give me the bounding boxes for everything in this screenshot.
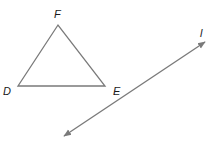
geometry-diagram: F D E l: [0, 0, 209, 144]
vertex-label-f: F: [54, 8, 62, 20]
line-l: [64, 42, 205, 136]
vertex-label-e: E: [113, 85, 121, 97]
vertex-label-d: D: [3, 85, 11, 97]
line-label-l: l: [200, 27, 203, 39]
triangle-def: [18, 25, 105, 86]
